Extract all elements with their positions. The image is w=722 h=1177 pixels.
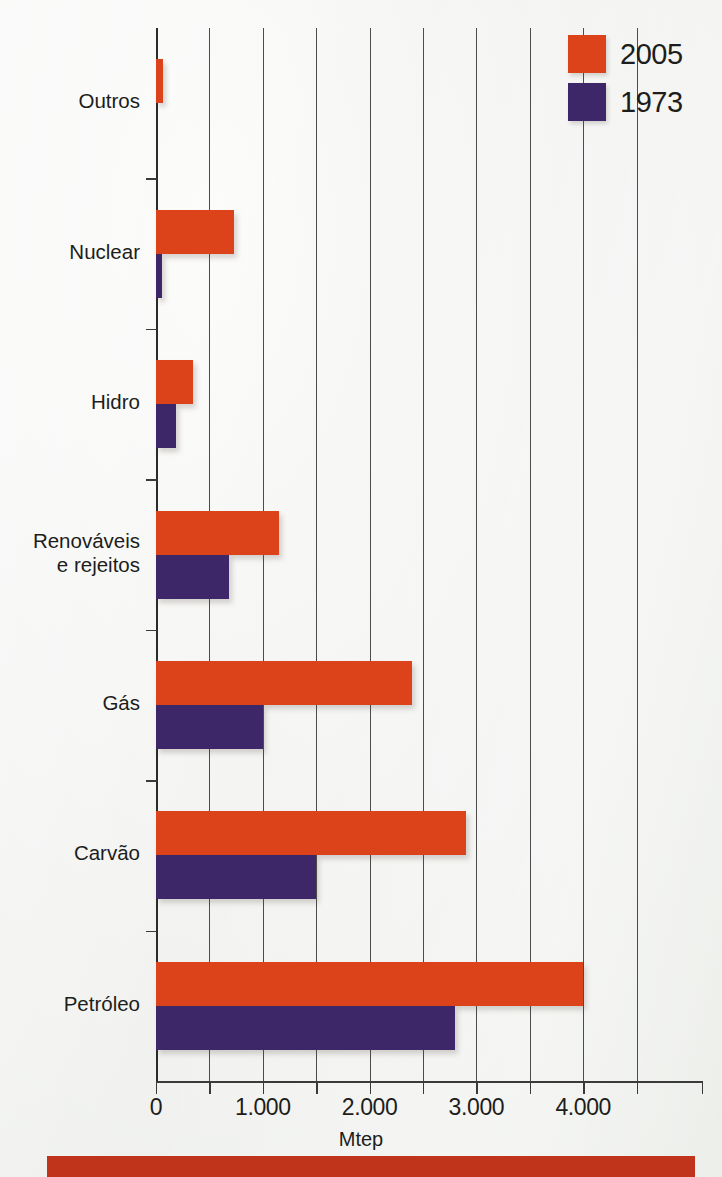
x-axis-tick: [423, 1081, 424, 1094]
y-axis-tick: [146, 178, 157, 179]
bar-2005: [156, 59, 163, 103]
x-axis-tick: [316, 1081, 317, 1094]
bar-2005: [156, 511, 279, 555]
x-axis-title: Mtep: [0, 1128, 722, 1151]
legend-swatch-2005: [568, 35, 606, 73]
x-axis-tick-label: 4.000: [555, 1094, 611, 1121]
figure-caption-band: [47, 1156, 695, 1177]
bar-1973: [156, 1006, 455, 1050]
bar-2005: [156, 661, 412, 705]
y-axis-tick: [146, 479, 157, 480]
gridline: [370, 28, 371, 1082]
bar-1973: [156, 555, 229, 599]
x-axis-tick: [530, 1081, 531, 1094]
x-axis-tick: [370, 1081, 371, 1094]
x-axis-tick: [476, 1081, 477, 1094]
x-axis-endcap: [702, 1081, 703, 1094]
y-axis-category-label: Hidro: [0, 390, 140, 414]
x-axis-line: [156, 1081, 703, 1083]
x-axis-tick: [583, 1081, 584, 1094]
gridline: [263, 28, 264, 1082]
y-axis-category-label: Carvão: [0, 841, 140, 865]
legend-swatch-1973: [568, 83, 606, 121]
legend-label: 2005: [620, 38, 683, 71]
y-axis-category-label: Gás: [0, 691, 140, 715]
gridline: [316, 28, 317, 1082]
y-axis-tick: [146, 329, 157, 330]
bar-1973: [156, 705, 263, 749]
y-axis-category-label: Petróleo: [0, 992, 140, 1016]
gridline: [583, 28, 584, 1082]
x-axis-tick: [156, 1081, 157, 1094]
y-axis-category-label: Outros: [0, 89, 140, 113]
plot-area: [156, 28, 690, 1082]
x-axis-tick: [209, 1081, 210, 1094]
x-axis-tick-label: 0: [150, 1094, 162, 1121]
legend-item: 2005: [568, 30, 683, 78]
y-axis-tick: [146, 931, 157, 932]
legend-item: 1973: [568, 78, 683, 126]
gridline: [423, 28, 424, 1082]
bar-2005: [156, 962, 583, 1006]
y-axis-tick: [146, 780, 157, 781]
x-axis-tick-label: 2.000: [342, 1094, 398, 1121]
x-axis-tick-label: 3.000: [449, 1094, 505, 1121]
y-axis-category-label: Renováveis e rejeitos: [0, 529, 140, 577]
gridline: [637, 28, 638, 1082]
bar-chart: OutrosNuclearHidroRenováveis e rejeitosG…: [0, 0, 722, 1177]
bar-1973: [156, 855, 316, 899]
gridline: [476, 28, 477, 1082]
legend: 20051973: [568, 30, 683, 126]
y-axis-category-label: Nuclear: [0, 240, 140, 264]
x-axis-tick: [263, 1081, 264, 1094]
bar-1973: [156, 404, 176, 448]
x-axis-tick: [637, 1081, 638, 1094]
bar-1973: [156, 254, 162, 298]
bar-2005: [156, 360, 193, 404]
legend-label: 1973: [620, 86, 683, 119]
bar-2005: [156, 210, 234, 254]
y-axis-tick: [146, 630, 157, 631]
bar-2005: [156, 811, 466, 855]
x-axis-tick-label: 1.000: [235, 1094, 291, 1121]
gridline: [530, 28, 531, 1082]
